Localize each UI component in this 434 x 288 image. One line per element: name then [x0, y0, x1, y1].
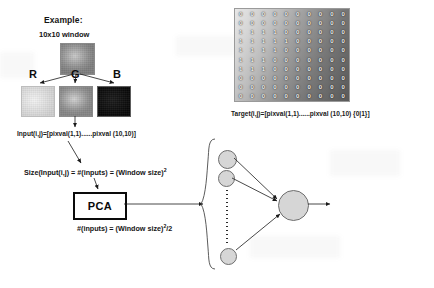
- matrix-cell: 1: [246, 64, 257, 73]
- matrix-cell: 0: [281, 64, 292, 73]
- matrix-cell: 0: [235, 83, 246, 92]
- matrix-cell: 0: [235, 9, 246, 18]
- matrix-cell: 0: [246, 83, 257, 92]
- matrix-cell: 0: [303, 55, 314, 64]
- matrix-cell: 1: [246, 27, 257, 36]
- matrix-cell: 0: [303, 46, 314, 55]
- matrix-cell: 0: [235, 92, 246, 101]
- matrix-cell: 0: [281, 92, 292, 101]
- pca-block[interactable]: PCA: [73, 192, 127, 220]
- matrix-cell: 0: [303, 18, 314, 27]
- matrix-cell: 0: [338, 46, 349, 55]
- input-node-1: [218, 150, 237, 169]
- reduced-equation-suffix: /2: [166, 224, 172, 233]
- matrix-cell: 0: [338, 92, 349, 101]
- matrix-cell: 0: [326, 27, 337, 36]
- matrix-cell: 0: [281, 18, 292, 27]
- matrix-cell: 0: [338, 18, 349, 27]
- matrix-cell: 0: [246, 9, 257, 18]
- input-layer-brace: [201, 139, 215, 269]
- matrix-cell: 0: [338, 73, 349, 82]
- matrix-cell: 0: [326, 73, 337, 82]
- matrix-cell: 0: [315, 18, 326, 27]
- matrix-cell: 0: [269, 92, 280, 101]
- green-channel-label: G: [71, 68, 80, 80]
- matrix-cell: 0: [315, 73, 326, 82]
- arrow-to-size-equation: [68, 141, 81, 163]
- matrix-cell: 0: [281, 46, 292, 55]
- matrix-cell: 0: [338, 27, 349, 36]
- matrix-cell: 0: [269, 9, 280, 18]
- matrix-cell: 0: [315, 27, 326, 36]
- reduced-equation-text: #(inputs) = (Window size): [77, 224, 163, 233]
- matrix-cell: 0: [292, 46, 303, 55]
- matrix-cell: 1: [258, 46, 269, 55]
- matrix-cell: 0: [338, 37, 349, 46]
- matrix-cell: 0: [326, 83, 337, 92]
- reduced-inputs-equation: #(inputs) = (Window size)2/2: [77, 224, 172, 233]
- matrix-cell: 0: [303, 83, 314, 92]
- matrix-cell: 0: [246, 18, 257, 27]
- matrix-cell: 0: [235, 73, 246, 82]
- matrix-cell: 0: [281, 55, 292, 64]
- matrix-cell: 0: [281, 73, 292, 82]
- matrix-cell: 0: [326, 46, 337, 55]
- matrix-cell: 0: [315, 64, 326, 73]
- matrix-cell: 0: [315, 92, 326, 101]
- matrix-cell: 0: [338, 9, 349, 18]
- matrix-cell: 1: [269, 46, 280, 55]
- matrix-cell: 0: [315, 9, 326, 18]
- blue-channel-label: B: [113, 68, 121, 80]
- slide-canvas: Example: 10x10 window R G B Input(i,j)=[…: [0, 0, 434, 288]
- matrix-cell: 1: [235, 37, 246, 46]
- matrix-cell: 0: [338, 83, 349, 92]
- matrix-cell: 0: [292, 64, 303, 73]
- matrix-cell: 1: [235, 46, 246, 55]
- matrix-cell: 0: [303, 64, 314, 73]
- matrix-cell: 0: [292, 27, 303, 36]
- matrix-cell: 0: [292, 92, 303, 101]
- arrow-to-blue: [80, 74, 114, 83]
- matrix-cell: 0: [326, 18, 337, 27]
- matrix-cell: 0: [303, 27, 314, 36]
- matrix-cell: 0: [326, 37, 337, 46]
- matrix-cell: 1: [246, 37, 257, 46]
- matrix-cell: 0: [303, 92, 314, 101]
- matrix-cell: 0: [292, 37, 303, 46]
- window-size-subtitle: 10x10 window: [39, 31, 89, 39]
- input-node-2: [218, 170, 235, 187]
- size-equation-exponent: 2: [164, 167, 167, 173]
- matrix-cell: 0: [315, 55, 326, 64]
- matrix-cell: 1: [258, 27, 269, 36]
- input-nodes-ellipsis: [226, 190, 228, 244]
- matrix-cell: 0: [246, 92, 257, 101]
- matrix-cell: 1: [235, 64, 246, 73]
- target-caption: Target(i,j)=[pixval(1,1)......pixval (10…: [231, 110, 370, 117]
- matrix-cell: 0: [281, 83, 292, 92]
- matrix-cell: 0: [303, 9, 314, 18]
- matrix-cell: 1: [258, 37, 269, 46]
- input-vector-label: Input(i,j)=[pixval(1,1)......pixval (10,…: [17, 130, 136, 137]
- example-title: Example:: [44, 16, 83, 25]
- edge-node2-output: [232, 178, 277, 201]
- matrix-cell: 0: [258, 9, 269, 18]
- matrix-cell: 0: [315, 46, 326, 55]
- matrix-cell: 0: [269, 18, 280, 27]
- matrix-cell: 0: [269, 73, 280, 82]
- edge-noden-output: [236, 214, 280, 250]
- matrix-cell: 1: [235, 55, 246, 64]
- matrix-cell: 0: [326, 55, 337, 64]
- matrix-cell: 1: [235, 27, 246, 36]
- matrix-cell: 1: [246, 46, 257, 55]
- matrix-cell: 0: [235, 18, 246, 27]
- matrix-cell: 0: [269, 64, 280, 73]
- output-node: [278, 190, 309, 221]
- matrix-cell: 0: [326, 9, 337, 18]
- target-matrix: 0000000000000000000011110000001111100000…: [234, 8, 350, 102]
- scan-artifact: [330, 150, 400, 176]
- matrix-cell: 0: [269, 83, 280, 92]
- matrix-cell: 0: [258, 73, 269, 82]
- edge-node1-output: [234, 158, 277, 199]
- matrix-cell: 1: [281, 37, 292, 46]
- scan-artifact: [250, 236, 340, 258]
